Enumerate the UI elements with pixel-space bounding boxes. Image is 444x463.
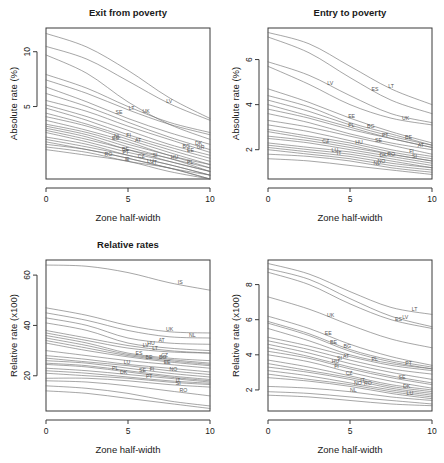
x-axis-label: Zone half-width <box>318 212 383 223</box>
series-label-CZ: CZ <box>322 138 329 144</box>
series-label-NL: NL <box>189 332 196 338</box>
panel-title: Exit from poverty <box>89 7 168 18</box>
series-line-HU <box>46 323 210 351</box>
series-label-ES: ES <box>112 135 119 141</box>
series-label-LV: LV <box>327 80 333 86</box>
y-tick-label: 10 <box>22 47 32 57</box>
x-tick-label: 0 <box>266 194 271 204</box>
series-label-UK: UK <box>327 312 335 318</box>
y-tick-label: 6 <box>244 57 254 62</box>
series-label-PL: PL <box>112 365 118 371</box>
series-line-IT <box>268 147 432 167</box>
x-tick-label: 5 <box>126 426 131 436</box>
y-tick-label: 40 <box>22 320 32 330</box>
series-label-DK: DK <box>403 383 411 389</box>
series-label-IE: IE <box>125 156 130 162</box>
series-label-IT: IT <box>152 159 157 165</box>
series-label-AT: AT <box>158 337 165 343</box>
chart-svg-panel-1: Entry to povertyLTESLVUKEEBGBEPLPTATSEFI… <box>222 0 444 231</box>
series-label-UK: UK <box>166 326 174 332</box>
series-label-LU: LU <box>407 390 414 396</box>
panel-exit-from-poverty: Exit from povertyLVUKLTSEDKGRBGEEFIATNLE… <box>0 0 222 231</box>
y-tick-label: 4 <box>244 352 254 357</box>
series-label-UK: UK <box>402 115 410 121</box>
x-tick-label: 10 <box>205 426 215 436</box>
series-label-RO: RO <box>179 387 187 393</box>
series-label-BE: BE <box>330 339 337 345</box>
series-label-SE: SE <box>375 137 382 143</box>
y-axis-label: Relative rate (x100) <box>8 294 19 377</box>
series-label-DK: DK <box>120 369 128 375</box>
series-label-NO: NO <box>354 380 362 386</box>
series-label-SE: SE <box>139 367 146 373</box>
panel-entry-to-poverty: Entry to povertyLTESLVUKEEBGBEPLPTATSEFI… <box>222 0 444 231</box>
series-label-SE: SE <box>399 374 406 380</box>
series-label-PL: PL <box>187 159 193 165</box>
panel-title: Entry to poverty <box>314 7 388 18</box>
series-label-BE: BE <box>405 134 412 140</box>
series-label-EE: EE <box>187 147 194 153</box>
series-label-HU: HU <box>355 139 363 145</box>
x-axis-label: Zone half-width <box>96 444 161 455</box>
series-label-RO: RO <box>387 151 395 157</box>
y-tick-label: 2 <box>244 147 254 152</box>
x-tick-label: 10 <box>427 194 437 204</box>
series-label-IS: IS <box>178 279 183 285</box>
series-label-FI: FI <box>150 366 155 372</box>
series-label-SI: SI <box>152 152 157 158</box>
series-label-SE: SE <box>116 109 123 115</box>
x-tick-label: 10 <box>205 194 215 204</box>
series-label-LU: LU <box>124 359 131 365</box>
y-axis-label: Relative rate (x100) <box>230 294 241 377</box>
series-label-FI: FI <box>334 363 339 369</box>
series-label-NL: NL <box>373 160 380 166</box>
series-label-AT: AT <box>343 353 350 359</box>
series-label-AT: AT <box>418 142 425 148</box>
panel-relative-rates-entry: LTLVESUKEEBGBEPTPLATSIHUSEFICZDKITRONOLU… <box>222 232 444 463</box>
figure-four-panel-poverty-rates: Exit from povertyLVUKLTSEDKGRBGEEFIATNLE… <box>0 0 444 463</box>
x-tick-label: 5 <box>348 194 353 204</box>
panel-title: Relative rates <box>97 239 159 250</box>
series-label-RO: RO <box>364 380 372 386</box>
x-axis-label: Zone half-width <box>318 444 383 455</box>
y-axis-label: Absolute rate (%) <box>8 67 19 140</box>
x-tick-label: 0 <box>44 426 49 436</box>
series-label-NL: NL <box>350 387 357 393</box>
y-tick-label: 60 <box>22 270 32 280</box>
y-tick-label: 6 <box>244 317 254 322</box>
series-label-LT: LT <box>129 105 135 111</box>
series-line-UK <box>46 308 210 333</box>
series-label-EE: EE <box>348 113 355 119</box>
series-label-BG: BG <box>367 123 375 129</box>
series-label-LT: LT <box>152 345 158 351</box>
series-label-ES: ES <box>135 350 142 356</box>
series-label-LV: LV <box>143 342 149 348</box>
series-label-RO: RO <box>104 151 112 157</box>
y-tick-label: 2 <box>244 387 254 392</box>
x-tick-label: 0 <box>44 194 49 204</box>
series-label-DK: DK <box>380 152 388 158</box>
series-line-LT <box>268 33 432 105</box>
series-label-PT: PT <box>405 360 412 366</box>
series-label-PT: PT <box>146 373 153 379</box>
series-label-EE: EE <box>164 359 171 365</box>
x-tick-label: 0 <box>266 426 271 436</box>
series-line-UK <box>46 74 210 132</box>
x-tick-label: 5 <box>348 426 353 436</box>
series-label-NO: NO <box>170 366 178 372</box>
series-label-SI: SI <box>176 380 181 386</box>
series-line-IS <box>46 265 210 290</box>
series-label-AT: AT <box>135 137 142 143</box>
series-label-LV: LV <box>166 98 172 104</box>
panel-relative-rates-exit: Relative ratesISUKNLATHULVLTCZESBGBEEELU… <box>0 232 222 463</box>
series-label-UK: UK <box>143 108 151 114</box>
series-line-LV <box>46 330 210 353</box>
series-label-PL: PL <box>372 356 378 362</box>
chart-svg-panel-0: Exit from povertyLVUKLTSEDKGRBGEEFIATNLE… <box>0 0 222 231</box>
series-label-LT: LT <box>412 306 418 312</box>
series-label-IT: IT <box>337 150 342 156</box>
series-label-LT: LT <box>388 83 394 89</box>
y-tick-label: 20 <box>22 371 32 381</box>
x-axis-label: Zone half-width <box>96 212 161 223</box>
series-label-BE: BE <box>145 354 152 360</box>
